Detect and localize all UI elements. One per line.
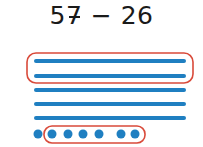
one-dot — [79, 130, 88, 139]
one-dot — [48, 130, 57, 139]
one-dot — [117, 130, 126, 139]
ones-dots — [34, 130, 140, 139]
one-dot — [64, 130, 73, 139]
place-value-model — [0, 0, 203, 147]
ones-taken-away-circle — [44, 126, 145, 143]
one-dot — [34, 130, 43, 139]
tens-rods — [36, 61, 184, 118]
one-dot — [95, 130, 104, 139]
one-dot — [131, 130, 140, 139]
tens-taken-away-circle — [27, 53, 193, 83]
